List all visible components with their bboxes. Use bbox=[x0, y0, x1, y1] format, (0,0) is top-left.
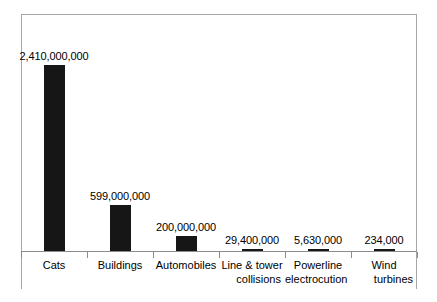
value-label: 5,630,000 bbox=[294, 234, 342, 246]
category-label-line2: electrocution bbox=[285, 273, 351, 287]
category-label-line1: Powerline bbox=[294, 259, 342, 271]
category-label-line1: Buildings bbox=[98, 259, 143, 271]
category-label: Windturbines bbox=[351, 259, 417, 286]
bar-wind-turbines bbox=[374, 249, 395, 252]
bars-layer bbox=[0, 0, 437, 251]
axis-tick bbox=[87, 252, 88, 258]
category-label-line1: Line & tower bbox=[221, 259, 282, 271]
category-label-line1: Cats bbox=[43, 259, 66, 271]
value-label: 2,410,000,000 bbox=[19, 50, 88, 62]
value-label: 234,000 bbox=[364, 234, 403, 246]
category-label-line1: Wind bbox=[371, 259, 396, 271]
axis-tick bbox=[219, 252, 220, 258]
bar-cats bbox=[44, 65, 65, 251]
bar-powerline-electrocution bbox=[308, 249, 329, 252]
axis-tick bbox=[285, 252, 286, 258]
bar-chart-figure: 2,410,000,000599,000,000200,000,00029,40… bbox=[0, 0, 437, 302]
category-label: Buildings bbox=[87, 259, 153, 273]
value-label: 29,400,000 bbox=[225, 234, 279, 246]
category-label-line2: turbines bbox=[351, 273, 417, 287]
category-label-line1: Automobiles bbox=[156, 259, 217, 271]
axis-tick bbox=[153, 252, 154, 258]
category-label: Line & towercollisions bbox=[219, 259, 285, 286]
bar-automobiles bbox=[176, 236, 197, 251]
category-label: Automobiles bbox=[153, 259, 219, 273]
category-label-line2: collisions bbox=[219, 273, 285, 287]
category-label: Powerlineelectrocution bbox=[285, 259, 351, 286]
axis-tick bbox=[417, 252, 418, 258]
category-label: Cats bbox=[21, 259, 87, 273]
axis-tick bbox=[21, 252, 22, 258]
value-label: 599,000,000 bbox=[90, 190, 150, 202]
value-label: 200,000,000 bbox=[156, 221, 216, 233]
axis-tick bbox=[351, 252, 352, 258]
bar-buildings bbox=[110, 205, 131, 251]
bar-line-tower-collisions bbox=[242, 249, 263, 252]
